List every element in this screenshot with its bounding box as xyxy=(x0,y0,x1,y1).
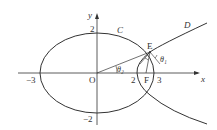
tick-x-2: 2 xyxy=(131,75,136,85)
origin-label: O xyxy=(89,75,96,85)
tick-y-neg2: −2 xyxy=(83,114,93,124)
ellipse-label: C xyxy=(117,25,124,35)
angle-arc-theta1 xyxy=(155,55,157,58)
theta2-label: θ₂ xyxy=(117,65,124,74)
angle-arc-e-left xyxy=(145,58,148,60)
point-f-label: F xyxy=(144,75,149,85)
tick-x-neg3: −3 xyxy=(26,75,36,85)
tick-x-3: 3 xyxy=(157,75,162,85)
x-axis-label: x xyxy=(200,74,205,84)
x-axis-arrow-icon xyxy=(194,71,200,75)
tick-y-2: 2 xyxy=(90,24,95,34)
y-axis-label: y xyxy=(87,10,92,20)
point-e-label: E xyxy=(147,41,153,51)
conic-diagram: y x O 2 −2 −3 2 3 C D E F θ₁ θ₂ xyxy=(0,0,217,130)
hyperbola-label: D xyxy=(183,20,191,30)
point-e-mark xyxy=(149,51,151,53)
y-axis-arrow-icon xyxy=(95,13,99,19)
theta1-label: θ₁ xyxy=(160,55,167,64)
